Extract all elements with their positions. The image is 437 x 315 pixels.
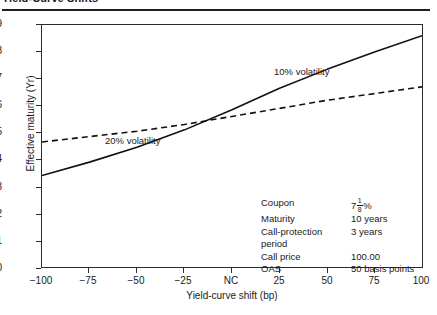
y-tick-label: 9 xyxy=(0,19,2,29)
figure: Yield-Curve Shifts Effective maturity (Y… xyxy=(0,0,437,315)
title-divider xyxy=(2,9,430,11)
spec-value-call-protection-cont xyxy=(345,238,414,251)
x-axis-label: Yield-curve shift (bp) xyxy=(41,290,423,301)
spec-row-call-protection: Call-protection 3 years xyxy=(261,226,414,239)
x-tick-label: 25 xyxy=(256,275,302,286)
spec-row-oas: OAS 50 basis points xyxy=(261,263,414,276)
page-title: Yield-Curve Shifts xyxy=(0,0,437,5)
spec-row-call-protection-cont: period xyxy=(261,238,414,251)
plot-area: 10% volatility 20% volatility Coupon 718… xyxy=(41,24,423,268)
x-tick-mark xyxy=(231,268,232,273)
y-tick-label: 1 xyxy=(0,236,2,246)
spec-value-call-protection: 3 years xyxy=(345,226,414,239)
spec-value-call-price: 100.00 xyxy=(345,251,414,264)
y-tick-label: 4 xyxy=(0,154,2,164)
x-tick-label: 100 xyxy=(398,275,437,286)
x-tick-mark xyxy=(136,268,137,273)
spec-row-call-price: Call price 100.00 xyxy=(261,251,414,264)
y-tick-label: 2 xyxy=(0,209,2,219)
x-tick-label: −100 xyxy=(18,275,64,286)
x-tick-label: −75 xyxy=(65,275,111,286)
x-tick-mark xyxy=(88,268,89,273)
spec-label-call-protection-cont: period xyxy=(261,238,345,251)
y-axis-label: Effective maturity (Yr) xyxy=(25,14,36,234)
spec-row-coupon: Coupon 718% xyxy=(261,197,414,213)
coupon-percent-sign: % xyxy=(363,200,371,211)
annotation-10pct-volatility: 10% volatility xyxy=(274,66,329,77)
y-tick-label: 6 xyxy=(0,100,2,110)
annotation-20pct-volatility: 20% volatility xyxy=(105,135,160,146)
y-tick-mark xyxy=(36,268,41,269)
spec-label-call-protection: Call-protection xyxy=(261,226,345,239)
spec-label-call-price: Call price xyxy=(261,251,345,264)
x-tick-label: 75 xyxy=(351,275,397,286)
x-tick-mark xyxy=(183,268,184,273)
x-tick-label: −50 xyxy=(113,275,159,286)
series-line-10pct-volatility xyxy=(42,36,422,176)
coupon-fraction: 18 xyxy=(357,197,363,213)
coupon-numerator: 1 xyxy=(357,197,363,206)
x-tick-label: NC xyxy=(208,275,254,286)
spec-label-maturity: Maturity xyxy=(261,213,345,226)
y-tick-label: 7 xyxy=(0,73,2,83)
spec-label-oas: OAS xyxy=(261,263,345,276)
x-tick-label: −25 xyxy=(160,275,206,286)
figure-title-container: Yield-Curve Shifts xyxy=(0,0,437,7)
y-tick-label: 3 xyxy=(0,182,2,192)
series-line-20pct-volatility xyxy=(42,87,422,142)
y-tick-label: 5 xyxy=(0,127,2,137)
y-tick-label: 8 xyxy=(0,46,2,56)
bond-spec-table: Coupon 718% Maturity 10 years Call-prote… xyxy=(261,197,414,276)
y-tick-label: 0 xyxy=(0,263,2,273)
x-tick-label: 50 xyxy=(304,275,350,286)
coupon-whole: 7 xyxy=(351,200,356,211)
spec-label-coupon: Coupon xyxy=(261,197,345,213)
spec-value-maturity: 10 years xyxy=(345,213,414,226)
spec-row-maturity: Maturity 10 years xyxy=(261,213,414,226)
spec-value-coupon: 718% xyxy=(345,197,414,213)
spec-value-oas: 50 basis points xyxy=(345,263,414,276)
coupon-denominator: 8 xyxy=(357,206,363,214)
